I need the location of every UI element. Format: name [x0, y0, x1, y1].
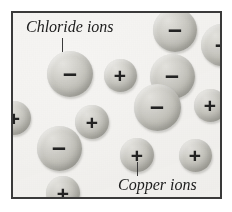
chloride-ion: –: [153, 11, 197, 52]
copper-ion: +: [104, 59, 137, 92]
positive-charge-symbol: +: [204, 95, 216, 116]
copper-ion: +: [179, 139, 212, 172]
leader-line-copper: [137, 162, 138, 176]
chloride-ion: –: [37, 126, 82, 171]
chloride-ion: –: [47, 51, 93, 97]
positive-charge-symbol: +: [114, 65, 126, 86]
copper-ion: +: [11, 101, 31, 135]
label-chloride-ions: Chloride ions: [26, 18, 114, 36]
copper-ion: +: [46, 176, 80, 199]
positive-charge-symbol: +: [86, 112, 98, 133]
chloride-ion: –: [134, 84, 181, 131]
leader-line-chloride: [62, 38, 63, 52]
negative-charge-symbol: –: [52, 135, 66, 160]
negative-charge-symbol: –: [165, 63, 179, 88]
negative-charge-symbol: –: [168, 17, 182, 42]
negative-charge-symbol: –: [215, 32, 222, 57]
positive-charge-symbol: +: [57, 183, 69, 200]
diagram-frame: ––––––+++++++ Chloride ionsCopper ions: [11, 11, 222, 199]
negative-charge-symbol: –: [150, 94, 164, 119]
ion-diagram-figure: ––––––+++++++ Chloride ionsCopper ions: [0, 0, 232, 212]
negative-charge-symbol: –: [63, 61, 77, 86]
copper-ion: +: [75, 105, 109, 139]
label-copper-ions: Copper ions: [118, 176, 197, 194]
chloride-ion: –: [201, 24, 222, 66]
copper-ion: +: [194, 89, 223, 122]
positive-charge-symbol: +: [11, 108, 20, 129]
positive-charge-symbol: +: [189, 145, 201, 166]
